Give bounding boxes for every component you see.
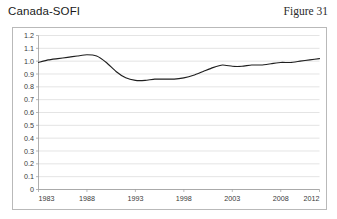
figure-page: Canada-SOFI Figure 31 00.10.20.30.40.50.… <box>0 0 337 219</box>
x-axis-tick-label: 2008 <box>273 194 289 203</box>
x-axis-tick-label: 1983 <box>39 194 55 203</box>
y-axis-tick-label: 1.1 <box>24 44 34 53</box>
y-axis-tick-label: 0.2 <box>24 159 34 168</box>
y-axis-tick-label: 0.5 <box>24 121 34 130</box>
x-axis-tick-label: 1988 <box>79 194 95 203</box>
y-axis-tick-label: 0 <box>30 185 34 194</box>
figure-header: Canada-SOFI Figure 31 <box>0 0 337 28</box>
y-axis-tick-label: 0.1 <box>24 172 34 181</box>
y-axis-tick-label: 0.7 <box>24 95 34 104</box>
y-axis-tick-label: 0.4 <box>24 134 34 143</box>
gridlines-group <box>39 36 320 190</box>
data-series-line <box>39 55 320 81</box>
y-axis-tick-label: 1.0 <box>24 57 34 66</box>
y-axis-tick-label: 0.8 <box>24 82 34 91</box>
y-axis-tick-label: 1.2 <box>24 31 34 40</box>
line-chart: 00.10.20.30.40.50.60.70.80.91.01.11.2 19… <box>13 28 326 209</box>
x-axis-tick-labels: 1983198819931998200320082012 <box>39 194 320 203</box>
y-axis-tick-labels: 00.10.20.30.40.50.60.70.80.91.01.11.2 <box>24 31 34 194</box>
x-axis-tick-label: 2003 <box>224 194 240 203</box>
y-axis-tick-label: 0.9 <box>24 70 34 79</box>
chart-container: 00.10.20.30.40.50.60.70.80.91.01.11.2 19… <box>12 27 327 210</box>
figure-number-label: Figure 31 <box>284 5 328 17</box>
x-axis-tick-label: 1998 <box>176 194 192 203</box>
x-axis-tick-label: 1993 <box>127 194 143 203</box>
page-title: Canada-SOFI <box>8 5 80 17</box>
y-axis-tick-label: 0.3 <box>24 147 34 156</box>
x-axis-tick-label: 2012 <box>304 194 320 203</box>
axis-lines-group <box>36 36 320 193</box>
y-axis-tick-label: 0.6 <box>24 108 34 117</box>
